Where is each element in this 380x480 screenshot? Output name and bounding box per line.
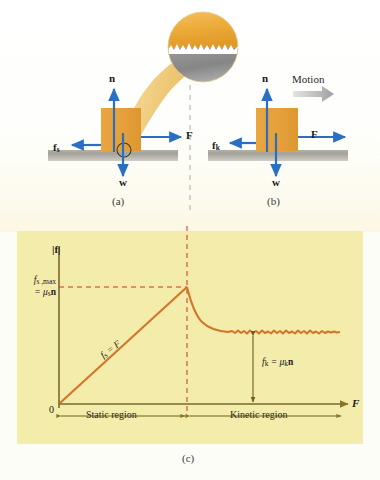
- fmax-normal: n: [51, 287, 56, 297]
- kinetic-friction-subscript-b: k: [216, 143, 220, 152]
- fk-equals-mu: = μ: [268, 357, 284, 367]
- fmax-subscript: s ,max: [36, 277, 56, 286]
- applied-force-label-b: F: [311, 129, 318, 141]
- static-friction-subscript-a: s: [57, 145, 60, 154]
- weight-label-a: w: [119, 177, 127, 189]
- fmax-mu: = μ: [34, 287, 48, 297]
- kinetic-region-label: Kinetic region: [230, 410, 287, 421]
- kinetic-friction-value-label: fk = μkn: [262, 358, 293, 368]
- panel-a-caption: (a): [112, 196, 124, 208]
- friction-figure: n w F fs (a) n w F fk Motion (b) |f| F 0…: [0, 0, 380, 480]
- normal-force-label-a: n: [109, 73, 115, 85]
- panel-b-diagram: [208, 86, 348, 176]
- panel-c-graph: [17, 226, 363, 444]
- normal-force-label-b: n: [262, 73, 268, 85]
- weight-label-b: w: [272, 177, 280, 189]
- origin-label: 0: [49, 405, 54, 416]
- applied-force-label-a: F: [186, 130, 193, 142]
- panel-b-caption: (b): [267, 196, 280, 208]
- block-a: [101, 108, 141, 151]
- panel-c-caption: (c): [182, 453, 194, 465]
- graph-panel-background: [17, 231, 363, 444]
- kinetic-friction-label-b: fk: [212, 136, 220, 153]
- motion-arrow: [293, 86, 334, 102]
- y-axis-label: |f|: [52, 244, 61, 256]
- fk-normal: n: [288, 357, 293, 367]
- ground-surface-b: [208, 150, 348, 161]
- static-region-label: Static region: [86, 410, 137, 421]
- x-axis-label: F: [352, 398, 359, 410]
- figure-canvas: [0, 0, 380, 480]
- static-friction-label-a: fs: [53, 138, 60, 155]
- max-static-friction-label: fs ,max = μsn: [12, 275, 56, 299]
- motion-label: Motion: [292, 74, 324, 86]
